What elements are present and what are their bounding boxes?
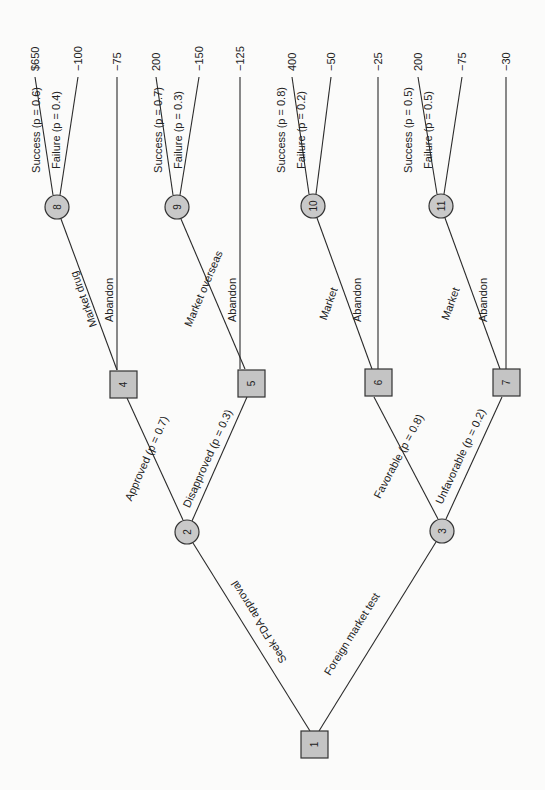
decision-node-5: 5 <box>238 370 265 397</box>
label-market-overseas: Market overseas <box>182 248 225 328</box>
edge-foreign-test <box>319 542 436 731</box>
payoff-10-success: 400 <box>286 53 298 71</box>
label-success-8: Success (p = 0.6) <box>30 87 42 173</box>
edge-seek-fda <box>193 543 310 731</box>
label-disapproved: Disapproved (p = 0.3) <box>180 407 234 509</box>
edge-failure-10 <box>316 77 331 194</box>
label-failure-9: Failure (p = 0.3) <box>172 91 184 169</box>
label-success-11: Success (p = 0.5) <box>402 87 414 173</box>
label-success-9: Success (p = 0.7) <box>152 87 164 173</box>
node-label: 5 <box>246 380 257 386</box>
decision-node-1: 1 <box>301 731 328 758</box>
chance-node-8: 8 <box>45 195 69 219</box>
payoff-8-success: $650 <box>29 47 41 71</box>
decision-node-6: 6 <box>365 369 392 396</box>
chance-node-3: 3 <box>430 519 454 543</box>
chance-node-9: 9 <box>165 195 189 219</box>
label-market-6: Market <box>317 286 340 322</box>
label-failure-8: Failure (p = 0.4) <box>50 91 62 169</box>
label-approved: Approved (p = 0.7) <box>122 414 170 502</box>
label-failure-10: Failure (p = 0.2) <box>295 91 307 169</box>
label-foreign-test: Foreign market test <box>321 591 381 678</box>
label-seek-fda: Seek FDA approval <box>228 579 288 666</box>
node-label: 3 <box>437 528 448 534</box>
node-label: 9 <box>172 204 183 210</box>
payoff-6-abandon: −25 <box>372 52 384 71</box>
decision-node-4: 4 <box>110 371 137 398</box>
label-failure-11: Failure (p = 0.5) <box>422 91 434 169</box>
payoff-9-failure: −150 <box>193 46 205 71</box>
decision-tree: 1 2 3 4 5 6 7 8 9 10 11 Seek FDA app <box>0 0 545 790</box>
edge-failure-8 <box>60 77 78 195</box>
payoff-11-success: 200 <box>412 53 424 71</box>
label-success-10: Success (p = 0.8) <box>275 87 287 173</box>
payoffs: $650 −100 −75 200 −150 −125 400 −50 −25 … <box>29 46 512 71</box>
edge-approved <box>127 398 183 520</box>
node-label: 6 <box>373 379 384 385</box>
edge-failure-11 <box>444 77 462 194</box>
payoff-9-success: 200 <box>150 53 162 71</box>
node-label: 8 <box>52 204 63 210</box>
label-abandon-7: Abandon <box>477 278 489 322</box>
node-label: 10 <box>308 200 319 212</box>
label-favorable: Favorable (p = 0.8) <box>371 412 425 500</box>
label-unfavorable: Unfavorable (p = 0.2) <box>433 407 488 506</box>
label-abandon-4: Abandon <box>103 278 115 322</box>
node-label: 1 <box>309 741 320 747</box>
payoff-8-failure: −100 <box>72 46 84 71</box>
node-label: 7 <box>501 379 512 385</box>
node-label: 4 <box>118 381 129 387</box>
payoff-4-abandon: −75 <box>111 52 123 71</box>
label-market-7: Market <box>439 286 462 322</box>
payoff-11-failure: −75 <box>456 52 468 71</box>
decision-node-7: 7 <box>493 369 520 396</box>
label-abandon-6: Abandon <box>351 278 363 322</box>
node-label: 2 <box>182 529 193 535</box>
node-label: 11 <box>436 200 447 211</box>
payoff-7-abandon: −30 <box>500 52 512 71</box>
payoff-5-abandon: −125 <box>234 46 246 71</box>
chance-node-11: 11 <box>429 194 453 218</box>
edge-favorable <box>374 397 438 519</box>
chance-node-2: 2 <box>175 520 199 544</box>
chance-node-10: 10 <box>301 194 325 218</box>
label-abandon-5: Abandon <box>226 278 238 322</box>
payoff-10-failure: −50 <box>325 52 337 71</box>
